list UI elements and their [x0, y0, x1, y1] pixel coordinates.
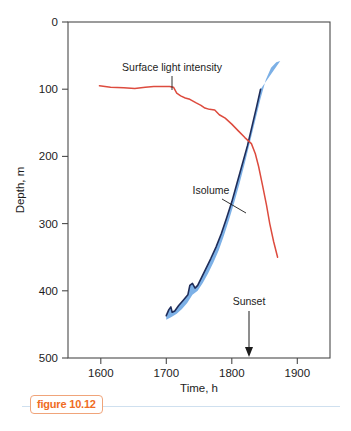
- figure-caption: figure 10.12: [22, 395, 342, 419]
- depth-vs-time-chart: 0 100 200 300 400 500 Depth, m 1600 1700…: [0, 0, 351, 431]
- figure-caption-badge: figure 10.12: [30, 395, 103, 414]
- y-tick-label-300: 300: [39, 218, 58, 230]
- surface-light-intensity-label: Surface light intensity: [122, 61, 223, 73]
- x-axis-tick-labels: 1600 1700 1800 1900: [88, 367, 310, 379]
- y-tick-label-200: 200: [39, 150, 58, 162]
- x-axis-ticks: [101, 358, 297, 364]
- x-tick-label-1800: 1800: [219, 367, 245, 379]
- y-axis-tick-labels: 0 100 200 300 400 500: [39, 16, 58, 364]
- figure-container: 0 100 200 300 400 500 Depth, m 1600 1700…: [0, 0, 351, 431]
- x-tick-label-1900: 1900: [285, 367, 311, 379]
- y-tick-label-100: 100: [39, 83, 58, 95]
- y-tick-label-0: 0: [52, 16, 58, 28]
- y-axis-title: Depth, m: [14, 167, 26, 214]
- y-tick-label-500: 500: [39, 352, 58, 364]
- y-axis-ticks: [62, 22, 68, 358]
- y-tick-label-400: 400: [39, 285, 58, 297]
- isolume-label: Isolume: [193, 184, 230, 196]
- x-tick-label-1600: 1600: [88, 367, 114, 379]
- x-axis-title: Time, h: [180, 382, 218, 394]
- x-tick-label-1700: 1700: [154, 367, 180, 379]
- sunset-label: Sunset: [233, 295, 266, 307]
